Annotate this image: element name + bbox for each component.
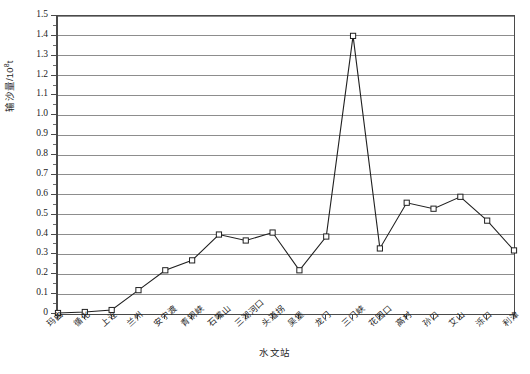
x-axis-title: 水文站 — [0, 345, 530, 359]
y-axis-tick-label: 1.3 — [22, 49, 48, 59]
y-axis-minor-tick — [53, 104, 56, 105]
chart-figure: 输沙量/108t 00.10.20.30.40.50.60.70.80.91.0… — [0, 0, 530, 374]
y-axis-tick-label: 0.9 — [22, 128, 48, 138]
y-axis-tick-label: 1.1 — [22, 88, 48, 98]
y-axis-tick-label: 0.2 — [22, 267, 48, 277]
y-axis-tick — [51, 114, 56, 115]
data-point-marker — [243, 238, 248, 243]
data-point-marker — [190, 258, 195, 263]
data-point-marker — [297, 268, 302, 273]
data-point-marker — [216, 232, 221, 237]
y-axis-minor-tick — [53, 85, 56, 86]
y-axis-tick — [51, 194, 56, 195]
y-axis-title-main: 输沙量/10 — [4, 67, 15, 111]
series-line — [58, 36, 514, 313]
y-axis-tick-label: 0.4 — [22, 228, 48, 238]
y-axis-minor-tick — [53, 224, 56, 225]
x-axis-title-text: 水文站 — [259, 347, 291, 358]
data-point-marker — [404, 200, 409, 205]
y-axis-tick — [51, 15, 56, 16]
y-axis-title-exponent: 8 — [3, 63, 10, 67]
y-axis-minor-tick — [53, 303, 56, 304]
y-axis-tick — [51, 35, 56, 36]
y-axis-tick-label: 1.5 — [22, 9, 48, 19]
y-axis-tick — [51, 273, 56, 274]
y-axis-minor-tick — [53, 124, 56, 125]
data-point-marker — [458, 194, 463, 199]
data-point-marker — [377, 246, 382, 251]
y-axis-tick-label: 0.5 — [22, 208, 48, 218]
y-axis-tick — [51, 134, 56, 135]
data-point-marker — [270, 230, 275, 235]
y-axis-tick-label: 0.8 — [22, 148, 48, 158]
data-point-marker — [485, 218, 490, 223]
y-axis-minor-tick — [53, 243, 56, 244]
y-axis-minor-tick — [53, 164, 56, 165]
y-axis-tick-label: 0.1 — [22, 287, 48, 297]
y-axis-tick — [51, 154, 56, 155]
y-axis-tick — [51, 55, 56, 56]
y-axis-tick — [51, 234, 56, 235]
y-axis-tick-label: 0.7 — [22, 168, 48, 178]
y-axis-tick-label: 0.3 — [22, 247, 48, 257]
y-axis-title-unit: t — [4, 60, 15, 63]
data-point-marker — [163, 268, 168, 273]
y-axis-minor-tick — [53, 184, 56, 185]
plot-area — [57, 15, 515, 315]
y-axis-tick — [51, 75, 56, 76]
figure-caption — [0, 366, 530, 374]
y-axis-minor-tick — [53, 144, 56, 145]
y-axis-tick — [51, 293, 56, 294]
y-axis-minor-tick — [53, 25, 56, 26]
y-axis-minor-tick — [53, 263, 56, 264]
series-layer — [58, 16, 514, 314]
y-axis-tick-label: 0 — [22, 307, 48, 317]
y-axis-minor-tick — [53, 204, 56, 205]
y-axis-tick-label: 1.4 — [22, 29, 48, 39]
data-point-marker — [431, 206, 436, 211]
y-axis-tick — [51, 174, 56, 175]
y-axis-tick-label: 0.6 — [22, 188, 48, 198]
y-axis-minor-tick — [53, 65, 56, 66]
data-point-marker — [324, 234, 329, 239]
y-axis-minor-tick — [53, 283, 56, 284]
y-axis-minor-tick — [53, 45, 56, 46]
y-axis-tick-label: 1.0 — [22, 108, 48, 118]
series-markers — [55, 33, 516, 315]
data-point-marker — [136, 288, 141, 293]
y-axis-tick — [51, 253, 56, 254]
y-axis-tick — [51, 94, 56, 95]
data-point-marker — [511, 248, 516, 253]
y-axis-tick-label: 1.2 — [22, 69, 48, 79]
y-axis-title: 输沙量/108t — [2, 26, 20, 146]
y-axis-tick — [51, 214, 56, 215]
data-point-marker — [350, 33, 355, 38]
